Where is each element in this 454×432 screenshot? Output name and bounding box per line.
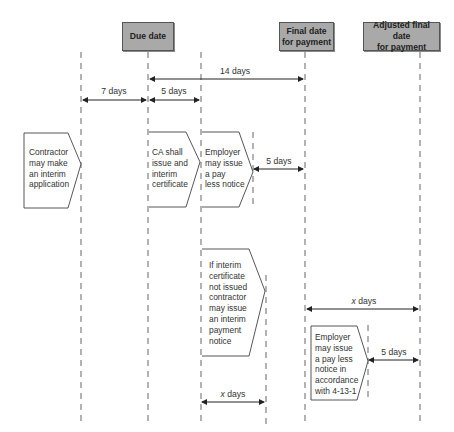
text-line: a pay [205, 169, 245, 180]
variable-x: x [352, 296, 356, 306]
text-line: interim [152, 169, 188, 180]
label-x-days-right-text: days [358, 296, 376, 306]
text-ca: CA shall issue and interim certificate [152, 147, 188, 190]
text-line: contractor [209, 292, 247, 303]
text-line: not issued [209, 282, 247, 293]
text-line: payment [209, 325, 247, 336]
text-line: may issue [209, 303, 247, 314]
header-due-date-label: Due date [130, 31, 166, 42]
label-x-days-bottom-text: days [227, 389, 245, 399]
header-final-date: Final datefor payment [279, 22, 334, 51]
header-adjusted-line1: Adjusted final date [373, 20, 430, 41]
text-line: issue and [152, 158, 188, 169]
label-7-days: 7 days [92, 86, 136, 96]
text-line: Employer [315, 332, 358, 343]
header-due-date: Due date [122, 22, 174, 51]
text-line: CA shall [152, 147, 188, 158]
header-final-date-line1: Final date [286, 26, 326, 36]
text-employer-payless: Employer may issue a pay less notice in … [315, 332, 358, 397]
text-line: may make [29, 158, 69, 169]
label-x-days-bottom: x days [208, 389, 258, 399]
text-line: with 4-13-1 [315, 386, 358, 397]
text-line: application [29, 179, 69, 190]
text-employer: Employer may issue a pay less notice [205, 147, 245, 190]
text-line: accordance [315, 375, 358, 386]
text-line: a pay less [315, 354, 358, 365]
text-line: notice [209, 336, 247, 347]
text-line: may issue [315, 343, 358, 354]
text-line: certificate [152, 179, 188, 190]
label-5-days-bottom: 5 days [372, 347, 416, 357]
text-line: Employer [205, 147, 245, 158]
header-adjusted-line2: for payment [377, 42, 426, 52]
text-line: certificate [209, 271, 247, 282]
text-line: notice in [315, 364, 358, 375]
dimension-arrows [83, 79, 418, 402]
text-contractor: Contractor may make an interim applicati… [29, 147, 69, 190]
text-line: Contractor [29, 147, 69, 158]
label-5-days-employer: 5 days [257, 156, 301, 166]
header-adjusted-final-date: Adjusted final datefor payment [363, 22, 440, 51]
text-line: may issue [205, 158, 245, 169]
timeline-dashed-lines [81, 52, 420, 425]
text-line: less notice [205, 179, 245, 190]
label-5-days-top: 5 days [152, 86, 196, 96]
header-final-date-line2: for payment [282, 37, 331, 47]
text-interim-notice: If interim certificate not issued contra… [209, 260, 247, 346]
label-x-days-right: x days [340, 296, 388, 306]
label-14-days: 14 days [205, 66, 265, 76]
text-line: If interim [209, 260, 247, 271]
variable-x: x [221, 389, 225, 399]
text-line: an interim [29, 169, 69, 180]
text-line: an interim [209, 314, 247, 325]
diagram-canvas [0, 0, 454, 432]
